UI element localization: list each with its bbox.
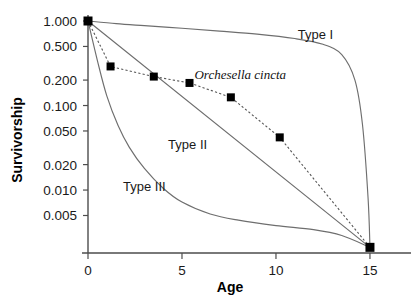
y-axis-title: Survivorship <box>9 97 25 183</box>
x-axis-tick-labels: 051015 <box>84 263 377 278</box>
y-tick-label: 0.010 <box>43 183 77 198</box>
data-point-marker <box>365 243 374 252</box>
y-tick-label: 0.500 <box>43 39 77 54</box>
curve-annotations-group: Type IOrchesella cinctaType IIType III <box>123 27 333 194</box>
data-point-marker <box>84 17 93 26</box>
y-tick-label: 0.020 <box>43 158 77 173</box>
y-tick-label: 0.200 <box>43 73 77 88</box>
data-point-marker <box>107 62 115 70</box>
x-axis-tick-marks <box>88 253 370 259</box>
chart-canvas: 1.0000.5000.2000.1000.0500.0200.0100.005… <box>0 0 419 304</box>
data-point-marker <box>227 93 235 101</box>
y-tick-label: 0.005 <box>43 208 77 223</box>
curve-type-ii <box>88 21 370 247</box>
survivorship-chart-figure: 1.0000.5000.2000.1000.0500.0200.0100.005… <box>0 0 419 304</box>
curve-annotation-label: Type I <box>298 27 333 42</box>
axes-group <box>82 15 411 259</box>
y-tick-label: 0.100 <box>43 99 77 114</box>
species-annotation-label: Orchesella cincta <box>194 67 286 82</box>
x-tick-label: 10 <box>268 263 283 278</box>
x-tick-label: 15 <box>362 263 377 278</box>
y-axis-tick-labels: 1.0000.5000.2000.1000.0500.0200.0100.005 <box>43 14 77 223</box>
data-point-marker <box>186 79 194 87</box>
data-point-marker <box>276 133 284 141</box>
curve-annotation-label: Type II <box>168 137 207 152</box>
y-tick-label: 0.050 <box>43 124 77 139</box>
x-tick-label: 5 <box>178 263 186 278</box>
x-axis-title: Age <box>217 279 244 295</box>
x-tick-label: 0 <box>84 263 92 278</box>
curve-annotation-label: Type III <box>123 179 166 194</box>
reference-curves-group <box>88 21 370 247</box>
y-axis-tick-marks <box>83 21 88 215</box>
data-point-marker <box>150 73 158 81</box>
y-tick-label: 1.000 <box>43 14 77 29</box>
